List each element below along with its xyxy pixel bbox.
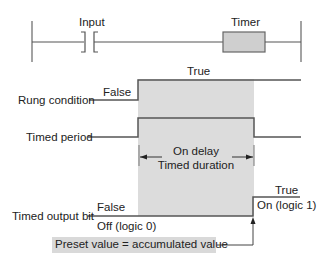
preset-note-text: Preset value = accumulated value bbox=[55, 239, 228, 251]
timer-block bbox=[223, 32, 265, 52]
output-false-label: False bbox=[97, 202, 125, 214]
output-on-label: On (logic 1) bbox=[257, 200, 316, 212]
timed-output-bit-label: Timed output bit bbox=[12, 211, 94, 223]
duration-line1: On delay bbox=[156, 146, 236, 158]
rung-false-label: False bbox=[103, 87, 131, 99]
rung-true-label: True bbox=[187, 66, 210, 78]
timed-period-label: Timed period bbox=[26, 132, 93, 144]
input-label: Input bbox=[79, 17, 105, 29]
output-true-label: True bbox=[275, 185, 298, 197]
output-off-label: Off (logic 0) bbox=[97, 221, 156, 233]
duration-line2: Timed duration bbox=[146, 160, 246, 172]
rung-condition-label: Rung condition bbox=[18, 95, 95, 107]
preset-note-box: Preset value = accumulated value bbox=[52, 237, 216, 253]
timer-label: Timer bbox=[231, 17, 260, 29]
arrowhead-up-icon bbox=[251, 217, 256, 224]
